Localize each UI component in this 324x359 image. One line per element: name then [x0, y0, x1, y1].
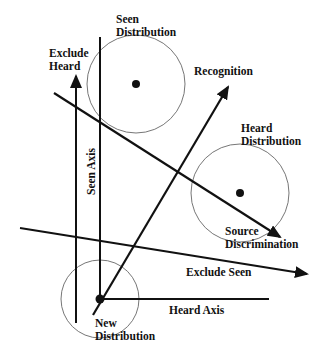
new-distribution-label: New Distribution — [95, 317, 156, 342]
seen-distribution-mean-dot — [132, 80, 140, 88]
diagram-canvas: Seen Distribution Exclude Heard Recognit… — [0, 0, 324, 359]
recognition-label: Recognition — [194, 65, 253, 78]
seen-distribution-label: Seen Distribution — [116, 13, 177, 38]
new-distribution-mean-dot — [96, 295, 105, 304]
heard-distribution-mean-dot — [236, 189, 244, 197]
exclude-seen-label: Exclude Seen — [186, 266, 252, 278]
source-discrimination-label: Source Discrimination — [225, 225, 299, 250]
heard-distribution-label: Heard Distribution — [241, 122, 302, 147]
heard-axis-label: Heard Axis — [169, 304, 225, 316]
exclude-seen-arrow — [20, 228, 307, 274]
exclude-heard-label: Exclude Heard — [49, 47, 92, 72]
seen-axis-label: Seen Axis — [85, 148, 97, 195]
recognition-arrow — [93, 87, 228, 315]
